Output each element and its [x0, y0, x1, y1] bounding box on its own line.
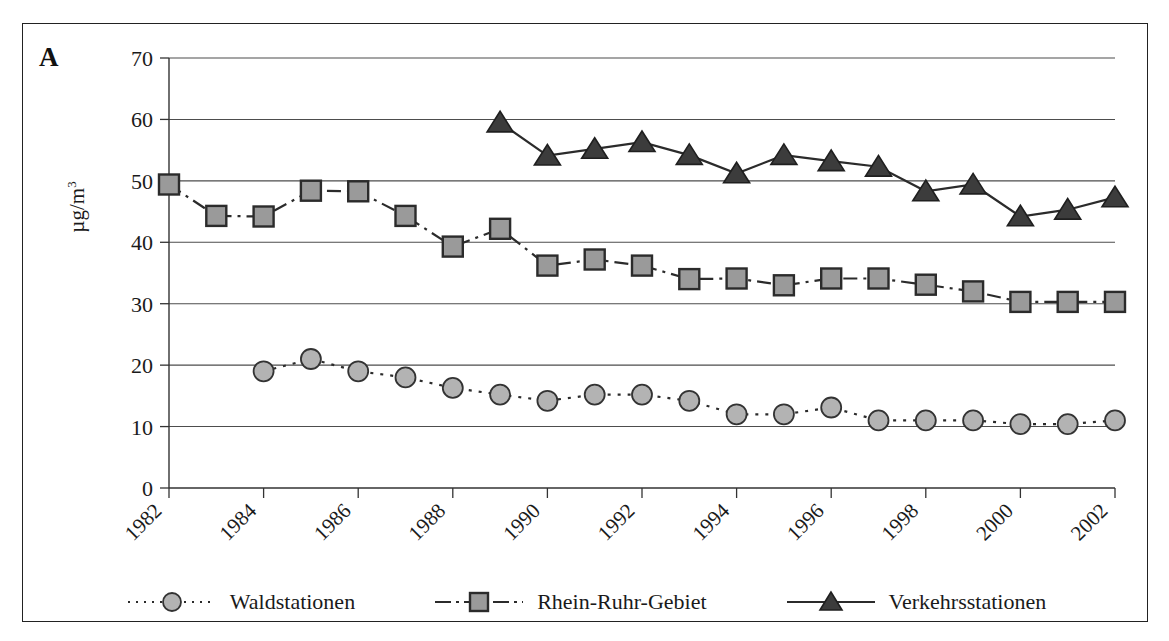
series-markers-group: [159, 111, 1128, 434]
data-point-square: [254, 207, 274, 227]
chart-canvas: 010203040506070 198219841986198819901992…: [23, 24, 1149, 623]
data-point-square: [443, 237, 463, 257]
data-point-circle: [585, 385, 605, 405]
x-tick-label: 1996: [782, 499, 829, 546]
data-point-triangle: [724, 162, 750, 183]
data-point-circle: [869, 410, 889, 430]
plot-area: 010203040506070 198219841986198819901992…: [23, 24, 1149, 623]
chart-legend: WaldstationenRhein-Ruhr-GebietVerkehrsst…: [23, 580, 1149, 624]
data-point-circle: [348, 361, 368, 381]
data-point-circle: [1010, 414, 1030, 434]
y-tick-label: 0: [142, 476, 153, 501]
x-tick-label: 2002: [1066, 499, 1113, 546]
data-point-circle: [537, 391, 557, 411]
y-tick-label: 10: [131, 415, 153, 440]
legend-marker: [470, 593, 488, 611]
x-tick-label: 1986: [309, 499, 356, 546]
data-point-square: [301, 181, 321, 201]
series-line-triangle: [500, 123, 1115, 217]
legend-entry-triangle[interactable]: Verkehrsstationen: [785, 589, 1047, 615]
legend-marker: [163, 593, 181, 611]
data-point-square: [1058, 292, 1078, 312]
x-tick-label: 1988: [404, 499, 451, 546]
data-point-square: [1105, 292, 1125, 312]
data-point-square: [632, 256, 652, 276]
data-point-square: [963, 281, 983, 301]
data-point-square: [348, 181, 368, 201]
data-point-circle: [1058, 414, 1078, 434]
data-point-triangle: [1055, 199, 1081, 220]
square-marker-icon: [433, 589, 525, 615]
data-point-circle: [490, 385, 510, 405]
data-point-triangle: [960, 173, 986, 194]
data-point-circle: [301, 349, 321, 369]
data-point-square: [1010, 292, 1030, 312]
x-tick-label: 1984: [214, 498, 261, 545]
y-tick-label: 40: [131, 230, 153, 255]
x-tick-label: 1982: [120, 499, 167, 546]
y-tick-label: 70: [131, 46, 153, 71]
x-tick-label: 1990: [498, 499, 545, 546]
x-tick-label: 1998: [877, 499, 924, 546]
data-point-circle: [443, 378, 463, 398]
data-point-square: [821, 269, 841, 289]
data-point-circle: [774, 404, 794, 424]
legend-label: Verkehrsstationen: [889, 589, 1047, 615]
circle-marker-icon: [126, 589, 218, 615]
data-point-triangle: [487, 111, 513, 132]
data-point-circle: [254, 361, 274, 381]
data-point-triangle: [629, 131, 655, 152]
y-tick-label: 60: [131, 107, 153, 132]
data-point-circle: [727, 404, 747, 424]
data-point-square: [537, 256, 557, 276]
legend-entry-square[interactable]: Rhein-Ruhr-Gebiet: [433, 589, 706, 615]
data-point-circle: [1105, 410, 1125, 430]
data-point-square: [679, 269, 699, 289]
y-tick-group: 010203040506070: [131, 46, 169, 501]
data-point-square: [916, 275, 936, 295]
data-point-square: [206, 206, 226, 226]
data-point-square: [869, 269, 889, 289]
data-point-circle: [821, 398, 841, 418]
x-tick-group: 1982198419861988199019921994199619982000…: [120, 488, 1115, 545]
data-point-square: [159, 175, 179, 195]
data-point-square: [774, 275, 794, 295]
gridlines-group: [169, 58, 1115, 427]
data-point-circle: [963, 410, 983, 430]
data-point-triangle: [1102, 186, 1128, 207]
data-point-triangle: [771, 144, 797, 165]
legend-label: Rhein-Ruhr-Gebiet: [537, 589, 706, 615]
y-tick-label: 30: [131, 292, 153, 317]
x-tick-label: 2000: [971, 499, 1018, 546]
y-tick-label: 50: [131, 169, 153, 194]
data-point-circle: [632, 385, 652, 405]
legend-entry-circle[interactable]: Waldstationen: [126, 589, 355, 615]
data-point-square: [396, 206, 416, 226]
data-point-square: [585, 250, 605, 270]
data-point-square: [490, 219, 510, 239]
triangle-marker-icon: [785, 589, 877, 615]
x-tick-label: 1994: [687, 498, 734, 545]
data-point-circle: [396, 367, 416, 387]
y-tick-label: 20: [131, 353, 153, 378]
x-tick-label: 1992: [593, 499, 640, 546]
data-point-square: [727, 269, 747, 289]
data-point-circle: [679, 391, 699, 411]
legend-label: Waldstationen: [230, 589, 355, 615]
data-point-circle: [916, 410, 936, 430]
data-point-triangle: [676, 144, 702, 165]
figure-frame: A µg/m3 010203040506070 1982198419861988…: [22, 23, 1148, 622]
